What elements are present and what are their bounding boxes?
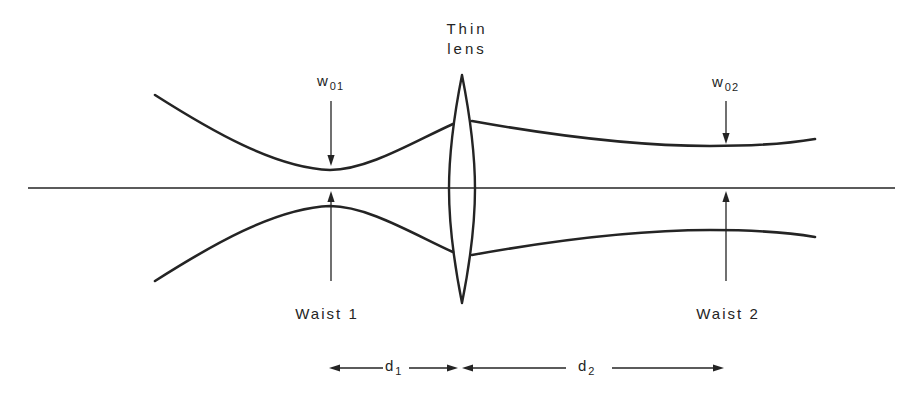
d1-arrowhead-right-icon bbox=[447, 364, 458, 371]
w01-label-subscript: 01 bbox=[330, 80, 344, 92]
waist1-label: Waist 1 bbox=[267, 304, 387, 324]
d1-label-subscript: 1 bbox=[395, 365, 402, 377]
beam-envelope-upper-right bbox=[472, 121, 815, 146]
d2-label: d2 bbox=[578, 356, 595, 381]
d2-label-subscript: 2 bbox=[588, 365, 595, 377]
thin-lens-label-line1: Thin bbox=[417, 19, 517, 39]
waist2-arrowhead-up-icon bbox=[722, 191, 729, 202]
w02-label-subscript: 02 bbox=[725, 81, 739, 93]
waist2-label: Waist 2 bbox=[668, 304, 788, 324]
d1-label-base: d bbox=[385, 357, 395, 374]
w01-label: w01 bbox=[317, 71, 344, 96]
w01-arrowhead-down-icon bbox=[327, 155, 334, 166]
thin-lens-label: Thin lens bbox=[417, 19, 517, 59]
diagram-linework bbox=[0, 0, 912, 394]
gaussian-beam-thin-lens-diagram: Thin lens w01 w02 Waist 1 Waist 2 d1 d2 bbox=[0, 0, 912, 394]
thin-lens-shape bbox=[449, 75, 475, 303]
thin-lens-label-line2: lens bbox=[417, 39, 517, 59]
beam-envelope-upper-left bbox=[155, 95, 453, 170]
w02-arrowhead-down-icon bbox=[722, 133, 729, 144]
beam-envelope-lower-left bbox=[155, 206, 453, 281]
beam-envelope-lower-right bbox=[472, 230, 815, 255]
w01-label-base: w bbox=[317, 72, 330, 89]
w02-label: w02 bbox=[712, 72, 739, 97]
waist1-arrowhead-up-icon bbox=[327, 191, 334, 202]
d1-arrowhead-left-icon bbox=[329, 364, 340, 371]
w02-label-base: w bbox=[712, 73, 725, 90]
d1-label: d1 bbox=[385, 356, 402, 381]
d2-arrowhead-left-icon bbox=[462, 364, 473, 371]
d2-arrowhead-right-icon bbox=[713, 364, 724, 371]
d2-label-base: d bbox=[578, 357, 588, 374]
